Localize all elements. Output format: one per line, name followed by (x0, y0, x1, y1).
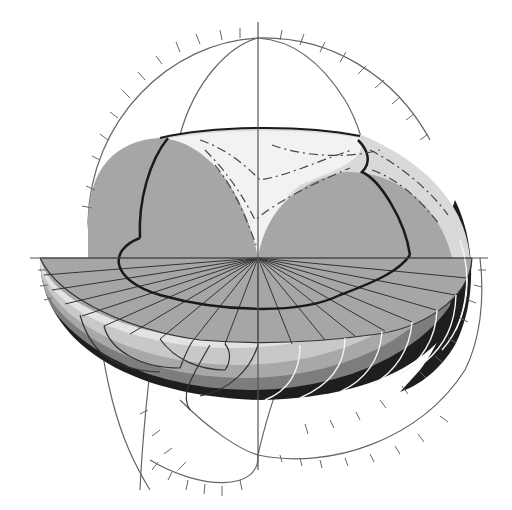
spheroid-diagram (0, 0, 512, 510)
diagram-canvas (0, 0, 512, 510)
